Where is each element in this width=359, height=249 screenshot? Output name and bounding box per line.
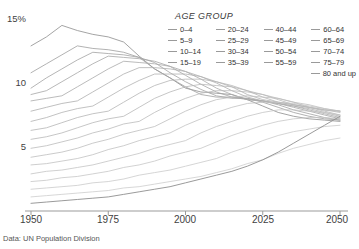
legend-item-label: 40–44 — [276, 25, 297, 34]
legend-line-swatch — [311, 29, 320, 30]
legend-item-label: 25–29 — [228, 36, 249, 45]
legend-item-label: 65–69 — [323, 36, 344, 45]
legend-item-label: 35–39 — [228, 58, 249, 67]
legend-line-swatch — [216, 40, 225, 41]
y-axis-tick-label: 5 — [0, 141, 26, 152]
legend-line-swatch — [216, 29, 225, 30]
legend-line-swatch — [311, 40, 320, 41]
chart-line-series — [31, 74, 340, 121]
legend-item[interactable]: 0–4 — [168, 25, 215, 34]
x-axis-tick-label: 2000 — [163, 214, 207, 225]
source-note: Data: UN Population Division — [3, 234, 100, 243]
legend-item[interactable]: 15–19 — [168, 58, 215, 67]
legend-items: 0–420–2440–4460–645–925–2945–4965–6910–1… — [168, 25, 358, 67]
legend-line-swatch — [311, 73, 320, 74]
legend-item-label: 75–79 — [323, 58, 344, 67]
x-axis-tick-label: 2025 — [241, 214, 285, 225]
legend-item[interactable]: 70–74 — [311, 47, 358, 56]
legend-item-label: 55–59 — [276, 58, 297, 67]
legend-item[interactable]: 55–59 — [264, 58, 311, 67]
legend-item[interactable]: 25–29 — [216, 36, 263, 45]
legend-item[interactable]: 60–64 — [311, 25, 358, 34]
legend-line-swatch — [216, 62, 225, 63]
x-axis-tick-label: 2050 — [315, 214, 359, 225]
y-axis-tick-label: 15% — [0, 13, 26, 24]
chart-line-series — [31, 118, 340, 182]
legend-item-label: 45–49 — [276, 36, 297, 45]
chart-line-series — [31, 110, 340, 174]
legend-item-label: 5–9 — [180, 36, 193, 45]
legend-line-swatch — [216, 51, 225, 52]
legend-title: AGE GROUP — [175, 11, 358, 21]
legend-item-label: 30–34 — [228, 47, 249, 56]
legend-item-label: 80 and up — [323, 69, 356, 78]
chart-line-series — [31, 91, 340, 149]
legend-item[interactable]: 30–34 — [216, 47, 263, 56]
legend-item[interactable]: 5–9 — [168, 36, 215, 45]
chart-line-series — [31, 116, 340, 203]
legend-item[interactable]: 80 and up — [311, 69, 356, 78]
legend-item[interactable]: 10–14 — [168, 47, 215, 56]
legend-line-swatch — [264, 62, 273, 63]
legend-line-swatch — [264, 40, 273, 41]
legend-item[interactable]: 40–44 — [264, 25, 311, 34]
legend-item-label: 20–24 — [228, 25, 249, 34]
legend-item[interactable]: 75–79 — [311, 58, 358, 67]
legend: AGE GROUP 0–420–2440–4460–645–925–2945–4… — [168, 11, 358, 78]
legend-line-swatch — [168, 40, 177, 41]
legend-item[interactable]: 45–49 — [264, 36, 311, 45]
legend-item-label: 50–54 — [276, 47, 297, 56]
legend-line-swatch — [264, 29, 273, 30]
legend-line-swatch — [311, 51, 320, 52]
x-axis-tick-label: 1950 — [9, 214, 53, 225]
legend-line-swatch — [168, 51, 177, 52]
legend-item[interactable]: 65–69 — [311, 36, 358, 45]
legend-line-swatch — [311, 62, 320, 63]
legend-line-swatch — [168, 62, 177, 63]
legend-item-label: 60–64 — [323, 25, 344, 34]
legend-item[interactable]: 35–39 — [216, 58, 263, 67]
legend-item-label: 15–19 — [180, 58, 201, 67]
chart-line-series — [31, 125, 340, 189]
legend-item[interactable]: 20–24 — [216, 25, 263, 34]
chart-line-series — [31, 84, 340, 139]
x-axis-tick-label: 1975 — [86, 214, 130, 225]
legend-line-swatch — [264, 51, 273, 52]
legend-item[interactable]: 50–54 — [264, 47, 311, 56]
age-structure-line-chart: 15% 10 5 1950 1975 2000 2025 2050 Data: … — [0, 0, 359, 249]
legend-item-label: 0–4 — [180, 25, 193, 34]
legend-item-label: 10–14 — [180, 47, 201, 56]
legend-item-label: 70–74 — [323, 47, 344, 56]
chart-line-series — [31, 102, 340, 165]
legend-item-80-and-up: 80 and up — [168, 69, 358, 78]
y-axis-tick-label: 10 — [0, 77, 26, 88]
legend-line-swatch — [168, 29, 177, 30]
